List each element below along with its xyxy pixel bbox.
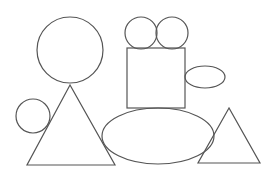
- small-triangle-shape: [198, 108, 260, 163]
- square-shape: [127, 48, 185, 108]
- small-circle-top-right-shape: [156, 17, 188, 49]
- shapes-diagram: [0, 0, 274, 181]
- small-circle-left-shape: [16, 99, 50, 133]
- large-triangle-shape: [27, 85, 115, 165]
- small-ellipse-shape: [185, 66, 225, 88]
- large-circle-shape: [37, 17, 103, 83]
- small-circle-top-left-shape: [125, 17, 157, 49]
- large-ellipse-shape: [102, 108, 214, 164]
- diagram-canvas: [0, 0, 274, 181]
